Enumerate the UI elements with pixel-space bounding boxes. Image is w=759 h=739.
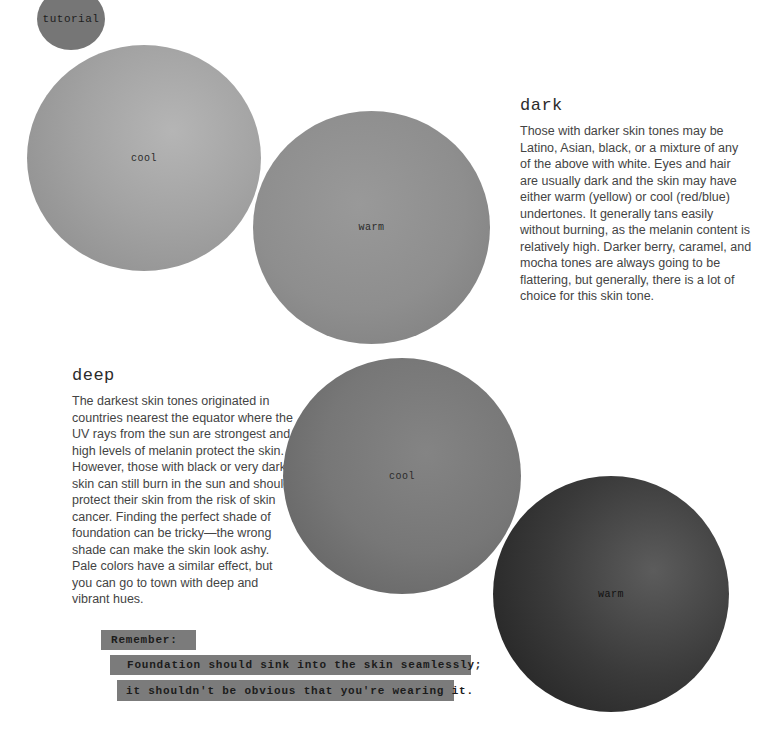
section-heading-deep: deep [72, 366, 115, 385]
note-title: Remember: [101, 630, 196, 650]
swatch-dark-cool: cool [27, 45, 261, 271]
tutorial-badge: tutorial [37, 0, 105, 50]
swatch-dark-warm: warm [253, 111, 490, 344]
section-body-deep: The darkest skin tones originated in cou… [72, 393, 294, 608]
swatch-label: warm [598, 589, 624, 600]
section-body-dark: Those with darker skin tones may be Lati… [520, 123, 752, 305]
section-heading-dark: dark [520, 96, 563, 115]
tutorial-label: tutorial [43, 13, 100, 25]
swatch-label: cool [389, 471, 415, 482]
swatch-deep-cool: cool [283, 358, 521, 594]
swatch-deep-warm: warm [493, 476, 729, 712]
swatch-label: cool [131, 153, 157, 164]
swatch-label: warm [358, 222, 384, 233]
note-line-2: it shouldn't be obvious that you're wear… [117, 680, 454, 701]
note-line-1: Foundation should sink into the skin sea… [110, 655, 471, 675]
